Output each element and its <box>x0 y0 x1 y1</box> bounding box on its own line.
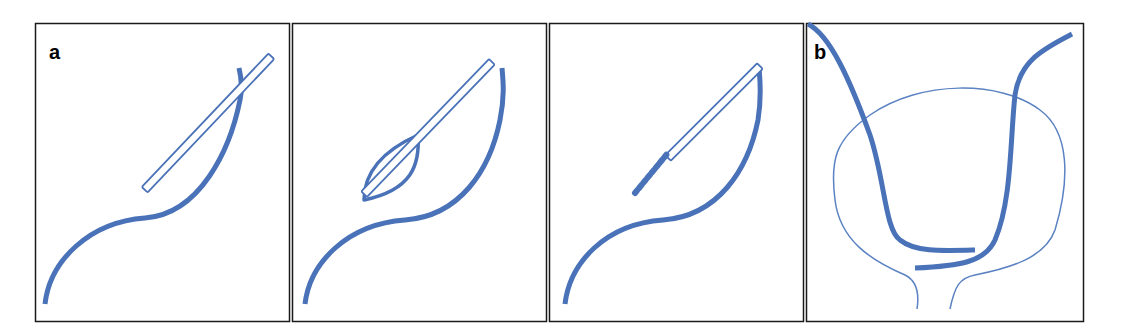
panel-frame-2 <box>293 24 547 322</box>
panel-label-b: b <box>814 42 826 62</box>
diagram-canvas <box>0 0 1124 331</box>
panel-frame-4 <box>807 24 1084 322</box>
panel-frame-3 <box>550 24 804 322</box>
figure: a b <box>0 0 1124 331</box>
panel-label-a: a <box>49 42 60 62</box>
